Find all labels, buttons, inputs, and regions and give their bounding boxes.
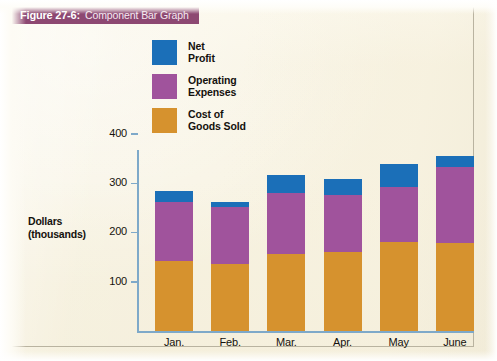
figure-title-banner: Figure 27-6: Component Bar Graph xyxy=(11,6,199,24)
legend-label-operating-expenses: Operating Expenses xyxy=(188,74,237,98)
legend-item-net-profit: Net Profit xyxy=(152,40,246,65)
bar-segment-net-profit xyxy=(380,164,418,187)
x-category-label: May xyxy=(369,336,429,348)
bar-segment-operating-expenses xyxy=(436,167,474,243)
scan-edge-right xyxy=(485,0,497,361)
bar-segment-net-profit xyxy=(324,179,362,195)
legend-swatch-net-profit xyxy=(152,40,177,65)
legend-label-line-1: Operating xyxy=(188,75,237,87)
legend-label-line-1: Cost of xyxy=(188,109,246,121)
bar-feb xyxy=(211,202,249,331)
legend-item-operating-expenses: Operating Expenses xyxy=(152,74,246,99)
x-category-label: June xyxy=(425,336,485,348)
figure-number: Figure 27-6: xyxy=(20,9,80,21)
legend-label-line-2: Goods Sold xyxy=(188,121,246,133)
bar-segment-cost-of-goods-sold xyxy=(380,242,418,331)
x-category-label: Mar. xyxy=(256,336,316,348)
figure-page: Figure 27-6: Component Bar Graph Net Pro… xyxy=(0,0,497,361)
bar-segment-cost-of-goods-sold xyxy=(211,264,249,331)
legend-swatch-cost-of-goods-sold xyxy=(152,108,177,133)
legend-label-line-2: Expenses xyxy=(188,87,237,99)
y-tick-label: 100 xyxy=(91,275,127,287)
bar-segment-cost-of-goods-sold xyxy=(267,254,305,331)
legend-item-cost-of-goods-sold: Cost of Goods Sold xyxy=(152,108,246,133)
y-tick-label: 200 xyxy=(91,225,127,237)
chart-legend: Net Profit Operating Expenses Cost of Go… xyxy=(152,40,246,142)
y-tick-label: 400 xyxy=(91,127,127,139)
scan-edge-bottom xyxy=(0,351,497,361)
bar-segment-operating-expenses xyxy=(211,207,249,264)
bar-segment-operating-expenses xyxy=(380,187,418,242)
bar-segment-net-profit xyxy=(155,191,193,202)
bar-segment-net-profit xyxy=(436,156,474,167)
legend-label-line-2: Profit xyxy=(188,53,215,65)
x-category-label: Jan. xyxy=(144,336,204,348)
bar-june xyxy=(436,156,474,331)
legend-swatch-operating-expenses xyxy=(152,74,177,99)
x-category-label: Feb. xyxy=(200,336,260,348)
bar-segment-operating-expenses xyxy=(155,202,193,261)
bar-may xyxy=(380,164,418,331)
legend-label-cost-of-goods-sold: Cost of Goods Sold xyxy=(188,108,246,132)
bar-jan xyxy=(155,191,193,331)
bar-segment-cost-of-goods-sold xyxy=(155,261,193,331)
bar-mar xyxy=(267,175,305,331)
x-category-label: Apr. xyxy=(313,336,373,348)
bar-segment-cost-of-goods-sold xyxy=(436,243,474,331)
legend-label-line-1: Net xyxy=(188,41,215,53)
bar-segment-operating-expenses xyxy=(324,195,362,252)
legend-label-net-profit: Net Profit xyxy=(188,40,215,64)
figure-caption: Component Bar Graph xyxy=(85,9,189,21)
bar-apr xyxy=(324,179,362,331)
y-tick-label: 300 xyxy=(91,176,127,188)
bar-segment-operating-expenses xyxy=(267,193,305,254)
bar-segment-cost-of-goods-sold xyxy=(324,252,362,331)
bar-segment-net-profit xyxy=(267,175,305,193)
